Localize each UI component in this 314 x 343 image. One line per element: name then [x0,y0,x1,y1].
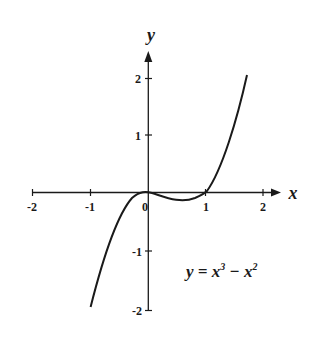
y-axis-label: y [145,25,156,45]
x-tick-label: 1 [203,200,209,214]
x-axis-arrow-icon [271,189,281,197]
svg-text:y = x3 − x2: y = x3 − x2 [184,261,258,281]
y-tick-label: -1 [132,245,142,259]
y-tick-label: 1 [135,129,141,143]
x-tick-label: -1 [85,200,95,214]
x-tick-label: -2 [27,200,37,214]
y-axis [144,51,152,311]
x-tick-label: 0 [142,200,148,214]
x-tick-label: 2 [260,200,266,214]
cubic-function-plot: -2 -1 0 1 2 2 1 -1 -2 y x y = x3 − x2 [0,0,314,343]
equation-label: y = x3 − x2 [184,261,258,281]
y-tick-label: 2 [135,72,141,86]
x-axis-label: x [288,183,298,203]
cubic-curve [91,75,247,307]
y-tick-label: -2 [132,304,142,318]
y-axis-arrow-icon [144,51,152,62]
